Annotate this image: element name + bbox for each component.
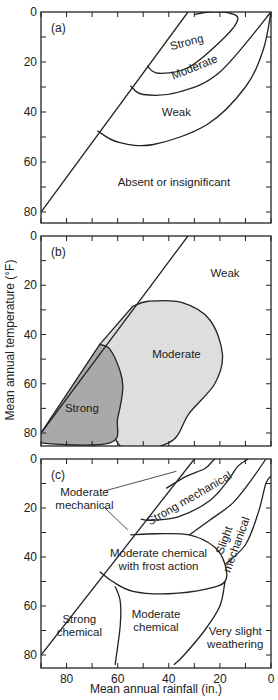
panel-label: (b) xyxy=(51,245,66,259)
y-tick-label: 80 xyxy=(24,648,38,662)
y-tick-label: 40 xyxy=(24,550,38,564)
very-slight-boundary xyxy=(174,582,225,665)
y-tick-label: 0 xyxy=(30,452,37,466)
weak-boundary xyxy=(97,12,271,146)
y-tick-label: 20 xyxy=(24,55,38,69)
region-label: Absent or insignificant xyxy=(118,176,231,188)
panel-label: (a) xyxy=(51,21,66,35)
y-tick-label: 20 xyxy=(24,501,38,515)
region-strong-area xyxy=(36,344,123,445)
strong-chemical-boundary xyxy=(115,586,121,664)
region-label: Weak xyxy=(210,267,239,279)
panel-frame xyxy=(41,12,271,223)
x-axis-label: Mean annual rainfall (in.) xyxy=(90,682,222,696)
leader-line xyxy=(105,471,177,491)
y-tick-label: 60 xyxy=(24,377,38,391)
panel-a: 020406080(a)StrongModerateWeakAbsent or … xyxy=(24,5,271,223)
y-tick-label: 0 xyxy=(30,5,37,19)
y-axis-label: Mean annual temperature (°F) xyxy=(3,260,17,421)
region-label: Moderate xyxy=(152,348,201,360)
region-label: Strongchemical xyxy=(57,613,102,638)
panel-b: 020406080(b)WeakModerateStrong xyxy=(24,229,271,451)
region-label: Moderate xyxy=(170,52,220,81)
y-tick-label: 40 xyxy=(24,328,38,342)
region-label: Moderatechemical xyxy=(132,608,181,633)
y-tick-label: 80 xyxy=(24,205,38,219)
y-tick-label: 80 xyxy=(24,426,38,440)
y-tick-label: 60 xyxy=(24,155,38,169)
y-tick-label: 20 xyxy=(24,278,38,292)
y-tick-label: 0 xyxy=(30,229,37,243)
region-label: Weak xyxy=(162,106,191,118)
x-tick-label: 80 xyxy=(60,672,74,686)
weathering-chart: 020406080(a)StrongModerateWeakAbsent or … xyxy=(0,0,278,700)
region-label: Strong mechanical xyxy=(145,469,233,527)
region-label: Moderatemechanical xyxy=(55,486,113,511)
y-tick-label: 40 xyxy=(24,105,38,119)
x-tick-label: 0 xyxy=(268,672,275,686)
region-label: Slightmechanical xyxy=(208,511,251,574)
panel-label: (c) xyxy=(51,468,65,482)
region-label: Moderate chemicalwith frost action xyxy=(110,547,207,572)
region-label: Strong xyxy=(65,402,99,414)
y-tick-label: 60 xyxy=(24,599,38,613)
moderate-boundary xyxy=(130,12,271,95)
region-label: Strong xyxy=(169,32,205,52)
panel-c: 020406080806040200(c)ModeratemechanicalS… xyxy=(24,452,275,686)
region-label: Very slightweathering xyxy=(206,625,263,650)
